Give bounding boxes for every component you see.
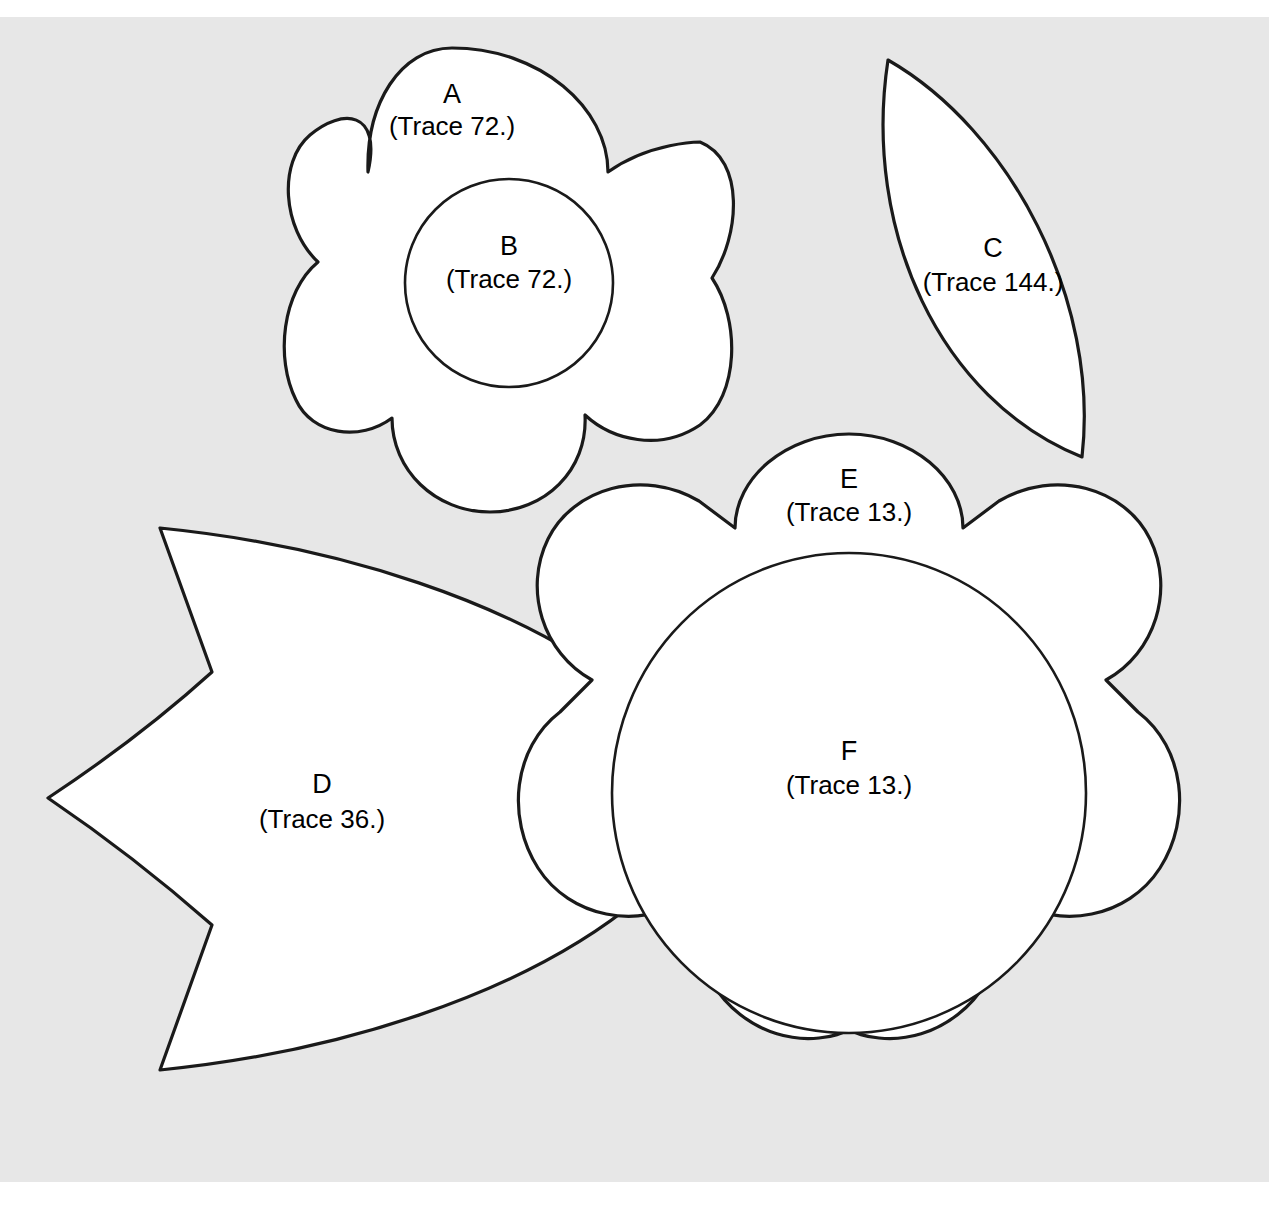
piece-b-trace: (Trace 72.)	[446, 264, 572, 294]
piece-f-letter: F	[841, 736, 858, 766]
piece-c-letter: C	[983, 233, 1003, 263]
piece-d-trace: (Trace 36.)	[259, 804, 385, 834]
piece-a-trace: (Trace 72.)	[389, 111, 515, 141]
piece-f-trace: (Trace 13.)	[786, 770, 912, 800]
piece-a-letter: A	[443, 79, 461, 109]
piece-d-letter: D	[312, 769, 332, 799]
piece-c-trace: (Trace 144.)	[923, 267, 1064, 297]
piece-b-letter: B	[500, 231, 518, 261]
piece-e-trace: (Trace 13.)	[786, 497, 912, 527]
pattern-sheet-page: A (Trace 72.) B (Trace 72.) C (Trace 144…	[0, 0, 1269, 1212]
pattern-pieces-canvas: A (Trace 72.) B (Trace 72.) C (Trace 144…	[0, 0, 1269, 1212]
piece-e-letter: E	[840, 464, 858, 494]
